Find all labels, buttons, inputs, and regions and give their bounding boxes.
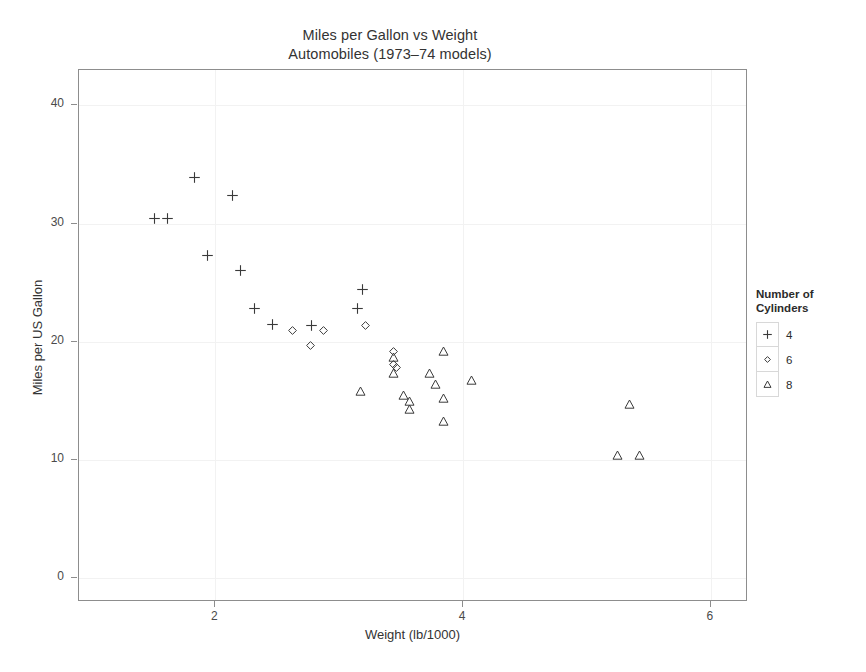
gridlines [79, 70, 746, 600]
data-point-4-cyl [234, 264, 247, 277]
chart-canvas: Miles per Gallon vs Weight Automobiles (… [0, 0, 866, 672]
diamond-icon [756, 347, 779, 372]
data-point-8-cyl [387, 367, 400, 380]
y-axis-tick-label: 0 [40, 569, 64, 583]
gridline-horizontal [79, 578, 746, 579]
x-axis-tick [710, 601, 711, 607]
data-point-8-cyl [354, 385, 367, 398]
data-point-4-cyl [148, 212, 161, 225]
legend-items: 468 [756, 322, 860, 397]
legend-item-4-cyl[interactable]: 4 [756, 322, 860, 347]
y-axis-tick [71, 104, 77, 105]
plot-panel [78, 69, 747, 601]
x-axis-tick [462, 601, 463, 607]
data-point-8-cyl [429, 378, 442, 391]
y-axis-tick [71, 459, 77, 460]
data-point-6-cyl [317, 324, 330, 337]
data-point-8-cyl [403, 395, 416, 408]
data-point-8-cyl [437, 415, 450, 428]
data-point-4-cyl [161, 212, 174, 225]
data-point-6-cyl [304, 339, 317, 352]
y-axis-tick [71, 341, 77, 342]
x-axis-title: Weight (lb/1000) [78, 627, 747, 642]
data-point-8-cyl [437, 345, 450, 358]
y-axis-title: Miles per US Gallon [30, 208, 45, 468]
chart-title-block: Miles per Gallon vs Weight Automobiles (… [0, 26, 780, 64]
legend-title: Number of Cylinders [756, 288, 860, 315]
gridline-horizontal [79, 224, 746, 225]
legend-title-line-1: Number of [756, 288, 860, 302]
data-point-4-cyl [226, 189, 239, 202]
data-point-4-cyl [351, 302, 364, 315]
data-point-8-cyl [623, 398, 636, 411]
legend-item-label: 8 [786, 379, 792, 391]
x-axis-tick-label: 4 [450, 609, 474, 623]
triangle-icon [756, 372, 779, 397]
data-point-8-cyl [387, 351, 400, 364]
chart-subtitle: Automobiles (1973–74 models) [0, 45, 780, 64]
legend: Number of Cylinders 468 [756, 288, 860, 397]
data-point-8-cyl [611, 449, 624, 462]
data-point-4-cyl [356, 283, 369, 296]
data-point-4-cyl [248, 302, 261, 315]
x-axis-tick [214, 601, 215, 607]
page-title: Miles per Gallon vs Weight [0, 26, 780, 45]
data-point-8-cyl [465, 374, 478, 387]
data-point-4-cyl [188, 171, 201, 184]
data-point-6-cyl [286, 324, 299, 337]
y-axis-tick [71, 223, 77, 224]
data-point-4-cyl [201, 249, 214, 262]
gridline-vertical [463, 70, 464, 600]
gridline-horizontal [79, 342, 746, 343]
legend-item-label: 4 [786, 329, 792, 341]
legend-title-line-2: Cylinders [756, 302, 860, 316]
data-point-8-cyl [633, 449, 646, 462]
y-axis-tick [71, 577, 77, 578]
x-axis-tick-label: 2 [202, 609, 226, 623]
gridline-horizontal [79, 105, 746, 106]
y-axis-tick-label: 40 [40, 96, 64, 110]
data-point-8-cyl [437, 392, 450, 405]
x-axis-tick-label: 6 [698, 609, 722, 623]
data-point-6-cyl [359, 319, 372, 332]
plus-icon [756, 322, 779, 347]
gridline-vertical [215, 70, 216, 600]
legend-item-label: 6 [786, 354, 792, 366]
legend-item-8-cyl[interactable]: 8 [756, 372, 860, 397]
gridline-vertical [711, 70, 712, 600]
legend-item-6-cyl[interactable]: 6 [756, 347, 860, 372]
data-point-4-cyl [266, 318, 279, 331]
